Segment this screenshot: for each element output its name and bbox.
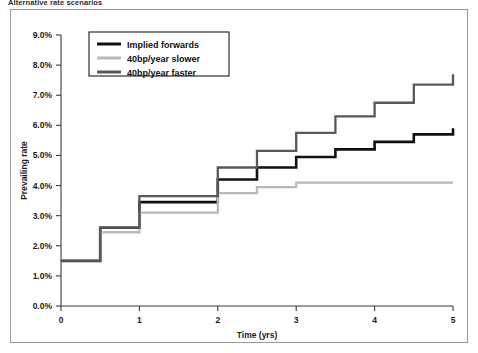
x-tick-label: 2 — [215, 315, 220, 325]
chart-plot: 0.0%1.0%2.0%3.0%4.0%5.0%6.0%7.0%8.0%9.0%… — [11, 10, 467, 342]
x-tick-label: 5 — [451, 315, 456, 325]
y-tick-label: 9.0% — [33, 30, 53, 40]
series-line-1 — [61, 128, 453, 260]
y-tick-label: 6.0% — [33, 120, 53, 130]
legend-label-3: 40bp/year faster — [127, 68, 197, 78]
y-axis-title: Prevailing rate — [19, 141, 29, 200]
y-tick-label: 3.0% — [33, 211, 53, 221]
chart-legend: Implied forwards40bp/year slower40bp/yea… — [89, 32, 229, 78]
y-tick-label: 8.0% — [33, 60, 53, 70]
series-group — [61, 74, 453, 261]
legend-label-1: Implied forwards — [127, 40, 199, 50]
legend-label-2: 40bp/year slower — [127, 54, 201, 64]
y-axis-tick-labels: 0.0%1.0%2.0%3.0%4.0%5.0%6.0%7.0%8.0%9.0% — [33, 30, 53, 311]
y-tick-label: 5.0% — [33, 150, 53, 160]
x-tick-label: 4 — [372, 315, 377, 325]
x-tick-label: 3 — [294, 315, 299, 325]
y-tick-label: 0.0% — [33, 301, 53, 311]
x-tick-label: 0 — [59, 315, 64, 325]
series-line-2 — [61, 183, 453, 261]
y-tick-label: 2.0% — [33, 241, 53, 251]
figure-title: Alternative rate scenarios — [8, 0, 102, 6]
x-tick-label: 1 — [137, 315, 142, 325]
y-tick-label: 7.0% — [33, 90, 53, 100]
chart-frame: 0.0%1.0%2.0%3.0%4.0%5.0%6.0%7.0%8.0%9.0%… — [10, 9, 468, 343]
y-tick-label: 1.0% — [33, 271, 53, 281]
chart-page: Alternative rate scenarios 0.0%1.0%2.0%3… — [0, 0, 478, 353]
x-axis-title: Time (yrs) — [237, 330, 278, 340]
x-axis-tick-labels: 012345 — [59, 315, 456, 325]
y-tick-label: 4.0% — [33, 181, 53, 191]
